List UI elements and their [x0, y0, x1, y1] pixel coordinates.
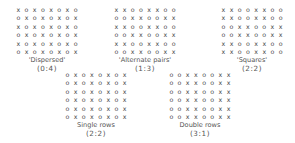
cross-marker: x [192, 79, 200, 87]
circle-marker: o [96, 105, 104, 113]
circle-marker: o [153, 14, 161, 22]
cross-marker: x [63, 40, 71, 48]
cross-marker: x [236, 31, 244, 39]
circle-marker: o [96, 96, 104, 104]
circle-marker: o [55, 40, 63, 48]
cross-marker: x [121, 96, 129, 104]
cross-marker: x [112, 6, 120, 14]
circle-marker: o [219, 31, 227, 39]
circle-marker: o [268, 48, 276, 56]
cross-marker: x [129, 31, 137, 39]
cross-marker: x [71, 105, 79, 113]
circle-marker: o [72, 40, 80, 48]
pattern-grid: oxoxoxoxoxoxoxoxoxoxoxoxoxoxoxoxoxoxoxox… [60, 71, 132, 121]
circle-marker: o [252, 31, 260, 39]
circle-marker: o [200, 71, 208, 79]
circle-marker: o [200, 79, 208, 87]
cross-marker: x [192, 105, 200, 113]
circle-marker: o [63, 48, 71, 56]
circle-marker: o [175, 79, 183, 87]
cross-marker: x [137, 48, 145, 56]
circle-marker: o [170, 40, 178, 48]
circle-marker: o [208, 105, 216, 113]
circle-marker: o [80, 79, 88, 87]
circle-marker: o [260, 31, 268, 39]
panel-single-rows: oxoxoxoxoxoxoxoxoxoxoxoxoxoxoxoxoxoxoxox… [60, 71, 132, 138]
circle-marker: o [175, 88, 183, 96]
cross-marker: x [145, 23, 153, 31]
cross-marker: x [161, 48, 169, 56]
circle-marker: o [112, 88, 120, 96]
cross-marker: x [216, 105, 224, 113]
panel-ratio: (3:1) [164, 129, 236, 138]
cross-marker: x [252, 40, 260, 48]
circle-marker: o [112, 79, 120, 87]
cross-marker: x [145, 40, 153, 48]
circle-marker: o [80, 88, 88, 96]
cross-marker: x [227, 14, 235, 22]
circle-marker: o [112, 14, 120, 22]
cross-marker: x [88, 113, 96, 121]
circle-marker: o [227, 31, 235, 39]
cross-marker: x [170, 31, 178, 39]
cross-marker: x [121, 79, 129, 87]
cross-marker: x [260, 6, 268, 14]
panel-label: Single rows [60, 121, 132, 129]
cross-marker: x [192, 96, 200, 104]
circle-marker: o [153, 48, 161, 56]
pattern-grid: ooxxooxxooxxooxxooxxooxxooxxooxxooxxooxx… [164, 71, 236, 121]
circle-marker: o [63, 71, 71, 79]
circle-marker: o [63, 79, 71, 87]
cross-marker: x [88, 71, 96, 79]
cross-marker: x [192, 71, 200, 79]
circle-marker: o [167, 105, 175, 113]
cross-marker: x [227, 6, 235, 14]
cross-marker: x [14, 40, 22, 48]
cross-marker: x [227, 48, 235, 56]
cross-marker: x [120, 6, 128, 14]
cross-marker: x [225, 105, 233, 113]
cross-marker: x [31, 40, 39, 48]
cross-marker: x [170, 48, 178, 56]
cross-marker: x [225, 113, 233, 121]
circle-marker: o [170, 6, 178, 14]
cross-marker: x [129, 14, 137, 22]
circle-marker: o [112, 96, 120, 104]
circle-marker: o [236, 14, 244, 22]
circle-marker: o [137, 23, 145, 31]
circle-marker: o [161, 23, 169, 31]
cross-marker: x [184, 88, 192, 96]
circle-marker: o [80, 96, 88, 104]
cross-marker: x [225, 96, 233, 104]
cross-marker: x [71, 88, 79, 96]
circle-marker: o [252, 23, 260, 31]
cross-marker: x [260, 14, 268, 22]
circle-marker: o [22, 40, 30, 48]
cross-marker: x [145, 6, 153, 14]
circle-marker: o [277, 40, 285, 48]
circle-marker: o [208, 96, 216, 104]
cross-marker: x [71, 96, 79, 104]
cross-marker: x [153, 40, 161, 48]
circle-marker: o [72, 6, 80, 14]
cross-marker: x [184, 71, 192, 79]
cross-marker: x [14, 6, 22, 14]
cross-marker: x [161, 31, 169, 39]
panel-label: 'Dispersed' [12, 56, 82, 64]
circle-marker: o [80, 113, 88, 121]
circle-marker: o [47, 31, 55, 39]
circle-marker: o [22, 6, 30, 14]
circle-marker: o [244, 48, 252, 56]
cross-marker: x [184, 96, 192, 104]
cross-marker: x [104, 88, 112, 96]
circle-marker: o [112, 48, 120, 56]
cross-marker: x [63, 6, 71, 14]
circle-marker: o [200, 88, 208, 96]
circle-marker: o [96, 88, 104, 96]
cross-marker: x [192, 88, 200, 96]
circle-marker: o [200, 113, 208, 121]
cross-marker: x [88, 96, 96, 104]
circle-marker: o [208, 113, 216, 121]
circle-marker: o [112, 105, 120, 113]
cross-marker: x [47, 6, 55, 14]
